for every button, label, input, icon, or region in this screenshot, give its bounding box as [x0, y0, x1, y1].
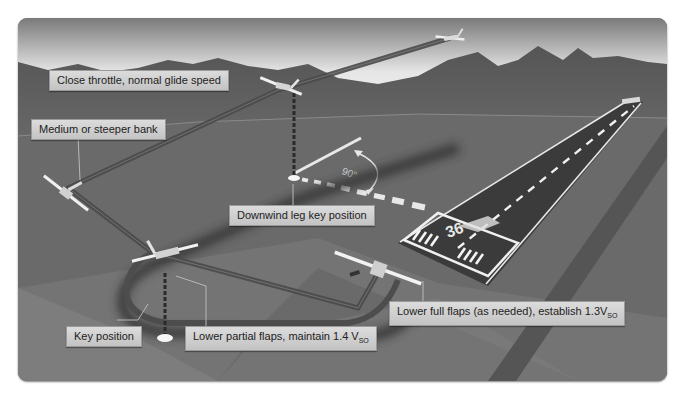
label-lower-partial-flaps: Lower partial flaps, maintain 1.4 VSO — [185, 326, 377, 351]
diagram-frame: 36 90° — [18, 18, 667, 381]
label-downwind-key-position: Downwind leg key position — [229, 205, 375, 226]
label-close-throttle: Close throttle, normal glide speed — [49, 70, 229, 91]
label-key-position: Key position — [66, 326, 142, 347]
label-medium-bank: Medium or steeper bank — [31, 119, 166, 140]
label-lower-full-flaps: Lower full flaps (as needed), establish … — [389, 301, 625, 326]
